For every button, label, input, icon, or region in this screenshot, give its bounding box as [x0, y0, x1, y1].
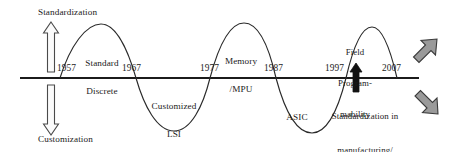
wave-label-asic: ASIC [280, 94, 314, 141]
customization-arrow-down [44, 85, 59, 135]
outcome-note-line: Standardization in [315, 111, 415, 122]
wave-label-standard-discrete: Standard Discrete [74, 40, 130, 115]
outcome-arrow-down-right [415, 91, 438, 115]
year-label-2007: 2007 [382, 64, 401, 74]
wave-label-line: Program- [329, 78, 381, 88]
outcome-note-line: manufacturing/ [315, 145, 415, 152]
outcome-arrow-up-right [414, 39, 438, 63]
outcome-note: Standardization in manufacturing/ Custom… [315, 88, 415, 152]
wave-label-line: Field [329, 47, 381, 57]
wave-label-line: Customized [141, 102, 207, 111]
wave-label-line: Discrete [74, 87, 130, 96]
wave-label-memory-mpu: Memory /MPU [213, 38, 269, 113]
wave-label-line: /MPU [213, 85, 269, 94]
axis-label-customization: Customization [38, 135, 93, 144]
wave-label-line: LSI [141, 130, 207, 139]
axis-label-standardization: Standardization [38, 8, 97, 17]
wave-label-line: ASIC [280, 113, 314, 122]
wave-label-customized-lsi: Customized LSI [141, 83, 207, 152]
timeline-figure: Standardization Customization 1957 1967 … [0, 0, 449, 152]
wave-label-line: Memory [213, 57, 269, 66]
wave-label-line: Standard [74, 59, 130, 68]
